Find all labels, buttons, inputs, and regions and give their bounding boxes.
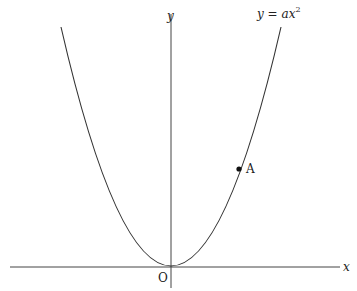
y-axis-label: y xyxy=(167,10,174,22)
graph-canvas xyxy=(0,0,357,291)
equation-coef: a xyxy=(281,7,288,21)
equation-exponent: 2 xyxy=(295,5,300,14)
point-a-marker xyxy=(236,166,241,171)
origin-label: O xyxy=(158,272,168,284)
equation-equals: = xyxy=(264,7,282,21)
equation-label: y = ax2 xyxy=(257,6,301,20)
equation-lhs: y xyxy=(257,7,264,21)
point-a-label: A xyxy=(246,163,255,175)
x-axis-label: x xyxy=(343,261,350,273)
